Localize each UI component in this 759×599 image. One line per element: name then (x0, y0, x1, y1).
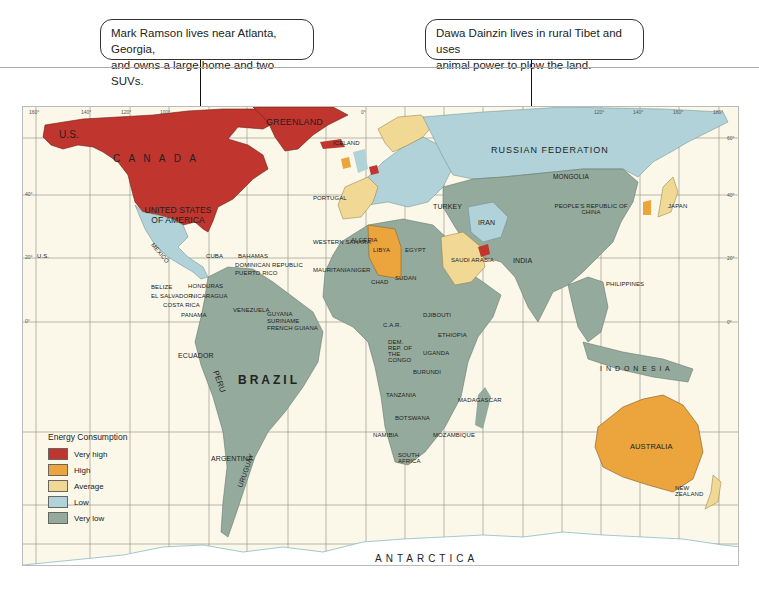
callout-mark-ramson: Mark Ramson lives near Atlanta, Georgia,… (100, 19, 314, 60)
label-china: PEOPLE'S REPUBLIC OF CHINA (551, 203, 631, 215)
swatch-very-high (48, 448, 68, 460)
label-guatemala: BELIZE (151, 284, 172, 290)
legend-label: Average (74, 482, 104, 491)
label-iran: IRAN (478, 219, 495, 226)
swatch-high (48, 464, 68, 476)
lon-tick: 180° (713, 109, 723, 115)
legend-item-low: Low (48, 494, 127, 510)
label-mongolia: MONGOLIA (553, 173, 589, 180)
label-australia: AUSTRALIA (630, 442, 673, 451)
lon-tick: 160° (29, 109, 39, 115)
label-south-africa: SOUTH AFRICA (398, 452, 428, 464)
label-antarctica: ANTARCTICA (375, 553, 478, 564)
label-madagascar: MADAGASCAR (458, 397, 502, 403)
label-ethiopia: DJIBOUTI (423, 312, 451, 318)
label-namibia: NAMIBIA (373, 432, 398, 438)
label-french-guiana: FRENCH GUIANA (267, 325, 318, 331)
label-tanzania: BURUNDI (413, 369, 441, 375)
label-portugal: PORTUGAL (313, 195, 347, 201)
divider-rule (0, 67, 759, 68)
madagascar (475, 387, 491, 429)
label-usa: UNITED STATES OF AMERICA (138, 205, 218, 225)
legend-label: High (74, 466, 90, 475)
label-guyana: GUYANA (267, 311, 293, 317)
lat-tick: 0° (727, 319, 732, 325)
label-india: INDIA (513, 257, 532, 264)
label-greenland: GREENLAND (266, 117, 323, 127)
label-kenya: UGANDA (423, 350, 449, 356)
label-philippines: PHILIPPINES (606, 281, 644, 287)
label-cuba: CUBA (206, 253, 223, 259)
japan (658, 177, 678, 217)
swatch-average (48, 480, 68, 492)
lat-tick: 40° (25, 191, 33, 197)
ireland (341, 157, 351, 169)
lat-tick: 20° (25, 254, 33, 260)
swatch-very-low (48, 512, 68, 524)
callout-dawa-dainzin: Dawa Dainzin lives in rural Tibet and us… (425, 19, 644, 60)
label-us-alaska: U.S. (59, 129, 79, 140)
label-egypt: EGYPT (405, 247, 426, 253)
label-iceland: ICELAND (333, 140, 360, 146)
label-angola: TANZANIA (386, 392, 416, 398)
label-drc: DEM. REP. OF THE CONGO (388, 339, 418, 363)
label-canada: C A N A D A (113, 153, 199, 164)
legend-label: Low (74, 498, 89, 507)
label-indonesia: I N D O N E S I A (600, 365, 671, 372)
label-mauritania: MAURITANIA (313, 267, 351, 273)
label-el-salvador: EL SALVADOR (151, 293, 193, 299)
legend-label: Very high (74, 450, 107, 459)
label-suriname: SURINAME (267, 318, 299, 324)
callout-text-line2: and owns a large home and two SUVs. (111, 57, 303, 89)
label-niger: NIGER (351, 267, 371, 273)
new-zealand (705, 475, 721, 509)
label-new-zealand: NEW ZEALAND (675, 485, 703, 497)
label-sudan: SUDAN (395, 275, 417, 281)
label-mozambique: MOZAMBIQUE (433, 432, 475, 438)
legend-label: Very low (74, 514, 104, 523)
label-us-hawaii: U.S. (37, 253, 49, 259)
lon-tick: 140° (633, 109, 643, 115)
lat-tick: 20° (727, 255, 735, 261)
swatch-low (48, 496, 68, 508)
label-nicaragua: NICARAGUA (191, 293, 228, 299)
indonesia (583, 342, 693, 382)
label-costa-rica: COSTA RICA (163, 302, 200, 308)
legend-item-average: Average (48, 478, 127, 494)
world-map: 160° 140° 120° 100° 0° 120° 140° 160° 18… (22, 106, 739, 566)
legend-item-high: High (48, 462, 127, 478)
lon-tick: 140° (81, 109, 91, 115)
label-bahamas: BAHAMAS (238, 253, 268, 259)
legend: Energy Consumption Very high High Averag… (48, 432, 127, 526)
label-brazil: BRAZIL (238, 373, 300, 387)
lon-tick: 120° (594, 109, 604, 115)
label-ecuador: ECUADOR (178, 352, 214, 359)
label-russia: RUSSIAN FEDERATION (491, 145, 609, 155)
label-panama: PANAMA (181, 312, 207, 318)
label-saudi-arabia: SAUDI ARABIA (451, 257, 494, 263)
lon-tick: 0° (361, 109, 366, 115)
legend-item-very-high: Very high (48, 446, 127, 462)
callout-text-line1: Dawa Dainzin lives in rural Tibet and us… (436, 25, 633, 57)
callout-text-line1: Mark Ramson lives near Atlanta, Georgia, (111, 25, 303, 57)
label-japan: JAPAN (668, 203, 687, 209)
label-botswana: BOTSWANA (395, 415, 430, 421)
label-honduras: HONDURAS (188, 283, 223, 289)
label-dominican-republic: DOMINICAN REPUBLIC (235, 262, 303, 268)
lat-tick: 60° (727, 135, 735, 141)
label-puerto-rico: PUERTO RICO (235, 270, 278, 276)
lon-tick: 100° (160, 109, 170, 115)
lon-tick: 160° (673, 109, 683, 115)
label-car: C.A.R. (383, 322, 401, 328)
lat-tick: 0° (25, 318, 30, 324)
label-algeria: ALGERIA (351, 237, 378, 243)
label-venezuela: VENEZUELA (233, 307, 270, 313)
legend-title: Energy Consumption (48, 432, 127, 442)
russia (423, 107, 728, 179)
lon-tick: 120° (121, 109, 131, 115)
southeast-asia (568, 277, 608, 342)
map-shapes (23, 107, 739, 566)
label-chad: CHAD (371, 279, 388, 285)
callout-text-line2: animal power to plow the land. (436, 57, 633, 73)
label-turkey: TURKEY (433, 203, 462, 210)
